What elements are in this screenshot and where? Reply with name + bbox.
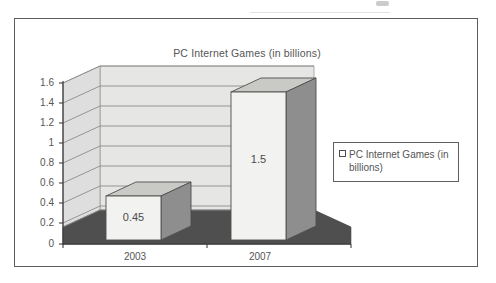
scan-artifact-line — [250, 12, 390, 13]
chart-legend: PC Internet Games (in billions) — [333, 142, 459, 182]
y-tick-label-0.4: 0.4 — [21, 197, 54, 208]
y-tick-label-0.8: 0.8 — [21, 157, 54, 168]
y-tick-label-1: 1 — [21, 137, 54, 148]
legend-swatch-icon — [339, 150, 346, 157]
bar-2007-front — [231, 92, 286, 240]
scan-artifact — [376, 1, 389, 6]
bar-value-2007: 1.5 — [231, 153, 286, 165]
x-tick-label-2003: 2003 — [105, 251, 165, 262]
bar-2007-side — [286, 78, 316, 240]
y-tick-label-1.4: 1.4 — [21, 97, 54, 108]
x-tick-label-2007: 2007 — [230, 251, 290, 262]
chart-frame: PC Internet Games (in billions) — [14, 18, 478, 267]
legend-entry-label: PC Internet Games (in billions) — [349, 148, 454, 174]
chart-image: PC Internet Games (in billions) — [0, 0, 496, 283]
y-tick-label-0.2: 0.2 — [21, 217, 54, 228]
y-tick-label-1.2: 1.2 — [21, 117, 54, 128]
y-tick-label-1.6: 1.6 — [21, 77, 54, 88]
bar-value-2003: 0.45 — [106, 211, 161, 223]
y-tick-label-0.6: 0.6 — [21, 177, 54, 188]
y-tick-label-0: 0 — [21, 238, 54, 249]
